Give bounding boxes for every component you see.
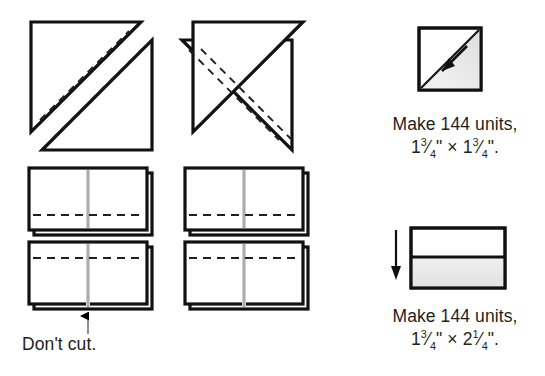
rect-frac2-num: 1 — [472, 329, 478, 341]
hst-marking-unit-left — [31, 22, 152, 150]
hst-frac2-num: 3 — [472, 137, 478, 149]
hst-w1: 1 — [411, 137, 421, 157]
rect-frac1: 3⁄4 — [421, 329, 436, 349]
hst-frac2: 3⁄4 — [472, 137, 487, 157]
rect-w1: 1 — [411, 329, 421, 349]
caption-hst-line2: 13⁄4" × 13⁄4". — [370, 136, 540, 159]
hst-frac1: 3⁄4 — [421, 137, 436, 157]
hst-mid: " × — [436, 137, 463, 157]
illustration-canvas: Make 144 units, 13⁄4" × 13⁄4". Make 144 … — [0, 0, 545, 376]
caption-dont-cut: Don't cut. — [22, 333, 192, 356]
caption-rectangle-units: Make 144 units, 13⁄4" × 21⁄4". — [370, 305, 540, 352]
rectangle-unit-row3-left — [29, 242, 152, 309]
rect-end: ". — [488, 329, 499, 349]
rect-w2: 2 — [463, 329, 473, 349]
caption-rect-line1: Make 144 units, — [392, 306, 517, 326]
caption-hst-units: Make 144 units, 13⁄4" × 13⁄4". — [370, 113, 540, 160]
hst-end: ". — [488, 137, 499, 157]
rect-frac2: 1⁄4 — [472, 329, 487, 349]
rectangle-unit-row2-right — [185, 168, 308, 235]
hst-w2: 1 — [463, 137, 473, 157]
rect-mid: " × — [436, 329, 463, 349]
rectangle-unit-row2-left — [29, 168, 152, 235]
hst-frac1-num: 3 — [421, 137, 427, 149]
rectangle-unit-row3-right — [185, 242, 308, 309]
caption-hst-line1: Make 144 units, — [392, 114, 517, 134]
rect-frac1-num: 3 — [421, 329, 427, 341]
caption-rect-line2: 13⁄4" × 21⁄4". — [370, 328, 540, 351]
finished-rectangle-unit-icon — [391, 228, 505, 288]
hst-marking-unit-right — [182, 22, 303, 150]
finished-hst-unit-icon — [419, 28, 481, 90]
